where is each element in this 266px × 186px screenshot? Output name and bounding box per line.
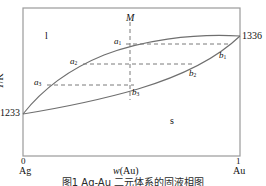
point-label-b2: b2 [189, 69, 196, 79]
y-axis-title: T/K [0, 73, 5, 89]
point-label-a3: a3 [34, 78, 41, 88]
point-label-b1: b1 [219, 51, 226, 61]
region-label-liquid: l [45, 31, 48, 41]
point-label-a2: a2 [70, 57, 77, 67]
region-label-solid: s [170, 116, 174, 126]
point-label-a1: a1 [114, 37, 121, 47]
liquidus-curve [23, 35, 240, 114]
axis-value-left-1233: 1233 [0, 108, 20, 118]
axis-value-right-1336: 1336 [242, 31, 262, 41]
point-label-b3: b3 [132, 88, 139, 98]
label-M: M [126, 13, 134, 23]
figure-caption: 图1 Ag-Au 二元体系的固液相图 [0, 174, 266, 186]
phase-diagram-figure: M l s a1 a2 a3 b1 b2 b3 1233 1336 T/K [0, 0, 266, 186]
solidus-curve [23, 36, 240, 114]
